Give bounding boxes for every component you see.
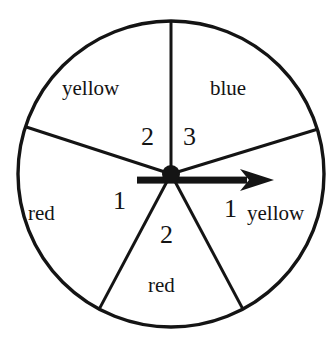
spinner-canvas — [0, 0, 336, 342]
spinner-diagram: yellow 2 blue 3 red 1 2 red 1 yellow — [0, 0, 336, 342]
wheel-center-hub — [162, 165, 180, 183]
arrow-shaft — [137, 177, 247, 184]
